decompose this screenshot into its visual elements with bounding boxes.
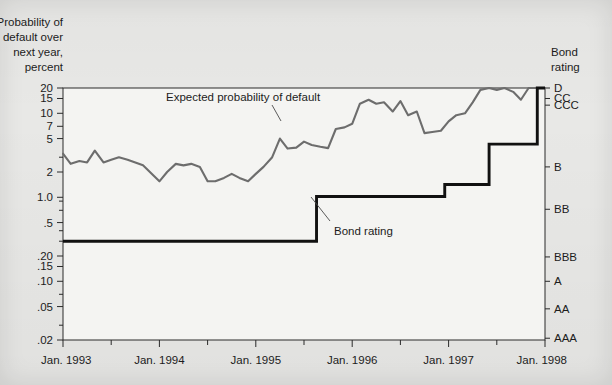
x-axis-tick-label: Jan. 1997: [423, 354, 474, 366]
y-axis-tick-label: .05: [37, 301, 53, 313]
x-axis-tick-label: Jan. 1993: [41, 354, 92, 366]
right-axis-tick-label: BB: [554, 203, 570, 215]
y-axis-tick-label: .02: [37, 334, 53, 346]
right-axis-tick-label: AAA: [554, 332, 577, 344]
x-axis-tick-group: Jan. 1993Jan. 1994Jan. 1995Jan. 1996Jan.…: [41, 340, 567, 366]
y-axis-tick-label: 1.0: [37, 191, 53, 203]
right-axis-title-line-1: Bond: [551, 46, 578, 58]
right-axis-title-line-2: rating: [551, 61, 580, 73]
right-axis-tick-label: A: [554, 275, 562, 287]
y-axis-tick-label: 2: [47, 166, 53, 178]
y-axis-tick-label: 15: [40, 92, 53, 104]
right-axis-tick-label: BBB: [554, 251, 577, 263]
plot-area-background: [63, 88, 545, 340]
left-axis-title-line-1: Probability of: [0, 16, 64, 28]
y-axis-tick-label: .10: [37, 275, 53, 287]
left-axis-title-line-4: percent: [25, 61, 64, 73]
right-axis-tick-label: B: [554, 161, 562, 173]
y-axis-tick-group: 2015107521.0.5.20.15.10.05.02: [37, 82, 63, 346]
left-axis-title-line-3: next year,: [13, 46, 63, 58]
x-axis-tick-label: Jan. 1994: [134, 354, 185, 366]
x-axis-tick-label: Jan. 1998: [516, 354, 567, 366]
chart-svg: 2015107521.0.5.20.15.10.05.02 Jan. 1993J…: [0, 0, 612, 385]
right-axis-tick-group: DCCCCCBBBBBBAAAAAA: [545, 82, 579, 344]
y-axis-tick-label: 7: [47, 120, 53, 132]
right-axis-tick-label: CCC: [554, 99, 579, 111]
y-axis-tick-label: 5: [47, 133, 53, 145]
y-axis-tick-label: .15: [37, 260, 53, 272]
y-axis-tick-label: 10: [40, 107, 53, 119]
series-label-expected-probability-of-default: Expected probability of default: [166, 91, 321, 103]
x-axis-tick-label: Jan. 1996: [327, 354, 378, 366]
right-axis-tick-label: AA: [554, 303, 570, 315]
y-axis-tick-label: .5: [43, 217, 53, 229]
x-axis-tick-label: Jan. 1995: [231, 354, 282, 366]
series-label-bond-rating: Bond rating: [334, 225, 393, 237]
figure-default-probability-vs-bond-rating: 2015107521.0.5.20.15.10.05.02 Jan. 1993J…: [0, 0, 612, 385]
left-axis-title-line-2: default over: [3, 31, 63, 43]
